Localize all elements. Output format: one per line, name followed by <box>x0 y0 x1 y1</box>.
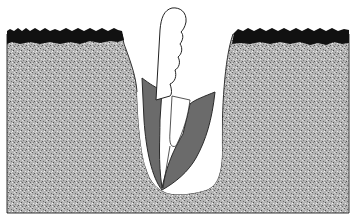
soil-cross-section-diagram: Planting hole with tool inserted in soil <box>0 0 355 221</box>
topsoil-crust-right <box>232 28 349 45</box>
stem <box>156 8 186 100</box>
topsoil-crust-left <box>7 28 124 44</box>
diagram-canvas <box>0 0 355 221</box>
